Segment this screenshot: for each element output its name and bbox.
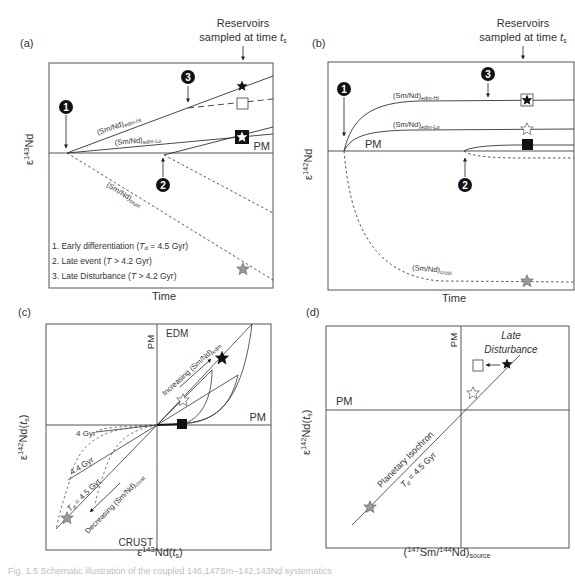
panel-a-disturbance-line: [188, 99, 273, 108]
panel-d-label: (d): [306, 306, 319, 318]
panel-c-45gyr-label: Td = 4.5 Gyr: [65, 477, 103, 514]
panel-b-open-star-icon: [521, 123, 534, 135]
panel-a-legend-1: 1. Early differentiation (Td = 4.5 Gyr): [52, 241, 188, 251]
panel-d-open-square-icon: [473, 360, 483, 371]
panel-c-black-star-icon: [215, 351, 229, 365]
panel-c-increasing-label: Increasing (Sm/Nd)edm: [160, 340, 223, 398]
panel-d-pm-horizontal-label: PM: [336, 395, 353, 407]
panel-b-late-event-curve: [464, 145, 574, 151]
svg-text:1: 1: [341, 84, 347, 95]
panel-d: (d) PM PM Late Disturbance Planetary Iso…: [299, 306, 569, 559]
panel-c-pm-horizontal-label: PM: [250, 411, 267, 423]
panel-a-pm-label: PM: [254, 140, 271, 152]
panel-b-label: (b): [312, 37, 325, 49]
panel-c-4gyr-label: 4 Gyr: [76, 429, 96, 438]
panel-a-xlabel: Time: [152, 290, 176, 302]
panel-b: (b) Reservoirs sampled at time ts PM (Sm…: [301, 17, 574, 304]
svg-text:2: 2: [160, 180, 166, 191]
panel-a-late-crust-line: [164, 155, 273, 213]
figure-canvas: (a) Reservoirs sampled at time ts PM (Sm…: [0, 0, 575, 577]
panel-b-frame: [328, 62, 574, 290]
panel-a-sampled-title-2: sampled at time ts: [199, 31, 287, 44]
svg-text:3: 3: [485, 69, 491, 80]
panel-b-xlabel: Time: [442, 292, 466, 304]
panel-c-label: (c): [18, 306, 31, 318]
panel-b-ylabel: ε142Nd: [301, 149, 314, 180]
svg-text:1: 1: [63, 102, 69, 113]
svg-text:3: 3: [185, 72, 191, 83]
panel-b-edm-lo-label: (Sm/Nd)edm-Lo: [393, 120, 440, 130]
panel-a-sampled-title-1: Reservoirs: [217, 17, 270, 29]
panel-d-late-label-1: Late: [501, 330, 521, 341]
panel-c-evolution-curve-1: [182, 324, 252, 424]
panel-b-crust-label: (Sm/Nd)crust: [412, 263, 453, 276]
panel-b-crust-curve: [344, 151, 574, 282]
panel-a-ylabel: ε143Nd: [22, 134, 35, 165]
panel-a-frame: [49, 63, 273, 288]
panel-c-black-square-icon: [177, 419, 187, 429]
panel-c-evolution-curve-3: [182, 375, 238, 424]
panel-d-ylabel: ε142Nd(ts): [299, 410, 313, 455]
svg-text:2: 2: [462, 180, 468, 191]
panel-c-edm-label: EDM: [166, 328, 188, 339]
panel-c-isochron-45: [157, 324, 252, 425]
panel-a: (a) Reservoirs sampled at time ts PM (Sm…: [20, 17, 287, 302]
panel-a-crust-label: (Sm/Nd)crust: [105, 180, 144, 209]
panel-b-black-square-icon: [522, 139, 533, 150]
panel-b-pm-label: PM: [365, 138, 382, 150]
panel-a-edm-lo-label: (Sm/Nd)edm-Lo: [114, 134, 161, 148]
panel-b-edm-hi-label: (Sm/Nd)edm-Hi: [393, 91, 439, 101]
panel-d-late-label-2: Disturbance: [484, 344, 538, 355]
panel-b-late-crust-curve: [464, 151, 574, 158]
panel-b-sampled-title-1: Reservoirs: [497, 17, 550, 29]
panel-a-open-square-icon: [237, 98, 248, 109]
panel-a-label: (a): [20, 37, 33, 49]
panel-a-legend-3: 3. Late Disturbance (T > 4.2 Gyr): [52, 271, 177, 281]
panel-d-xlabel: (147Sm/144Nd)source: [403, 545, 490, 559]
panel-a-legend-2: 2. Late event (T > 4.2 Gyr): [52, 256, 152, 266]
panel-d-pm-vertical-label: PM: [448, 333, 459, 347]
panel-c-xlabel: ε143Nd(ts): [137, 545, 182, 559]
panel-d-planetary-isochron: [352, 355, 520, 525]
panel-c-ylabel: ε142Nd(ts): [16, 415, 30, 460]
figure-caption-cutoff: Fig. 1.5 Schematic illustration of the c…: [8, 566, 568, 577]
panel-d-open-star-icon: [467, 387, 480, 399]
panel-c: (c) PM PM EDM CRUST Increasing (Sm/Nd)ed…: [16, 306, 271, 559]
panel-d-black-star-icon: [502, 359, 513, 369]
panel-c-pm-vertical-label: PM: [145, 335, 156, 349]
panel-b-gray-star-icon: [521, 275, 534, 287]
panel-b-sampled-title-2: sampled at time ts: [479, 31, 567, 44]
